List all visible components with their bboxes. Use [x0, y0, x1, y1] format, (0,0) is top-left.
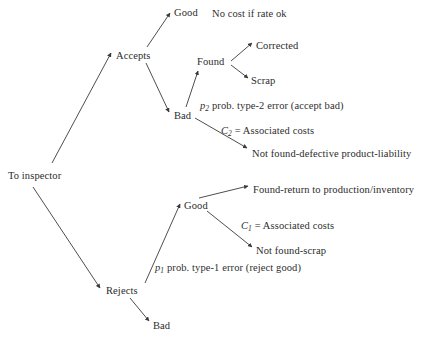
- tree-edge-root-rejects: [33, 187, 100, 288]
- tree-node-found-return: Found-return to production/inventory: [253, 184, 414, 196]
- tree-node-rejects-bad: Bad: [153, 320, 170, 332]
- tree-edges-svg: [0, 0, 422, 342]
- tree-node-not-found-scrap: Not found-scrap: [256, 245, 326, 257]
- tree-edge-root-accepts: [52, 53, 111, 163]
- annotation-text: = Associated costs: [252, 220, 334, 231]
- tree-node-accepts-bad: Bad: [174, 110, 191, 122]
- tree-edge-accepts-good: [147, 13, 170, 47]
- tree-node-scrap: Scrap: [251, 75, 275, 87]
- tree-annotation-c1: C1 = Associated costs: [241, 220, 334, 235]
- tree-edge-good-foundreturn: [199, 186, 248, 198]
- tree-node-not-found-def: Not found-defective product-liability: [252, 148, 411, 160]
- tree-node-rejects-good: Good: [184, 200, 208, 212]
- annotation-text: = Associated costs: [232, 125, 314, 136]
- annotation-text: No cost if rate ok: [212, 8, 287, 19]
- annotation-text: prob. type-1 error (reject good): [164, 262, 301, 273]
- tree-annotation-p2: p2 prob. type-2 error (accept bad): [200, 100, 344, 115]
- tree-edge-bad-found: [186, 71, 198, 107]
- tree-edge-rejects-bad: [130, 298, 149, 321]
- tree-node-corrected: Corrected: [256, 40, 298, 52]
- tree-node-root: To inspector: [8, 170, 61, 182]
- annotation-text: prob. type-2 error (accept bad): [209, 100, 343, 111]
- tree-node-accepts-good: Good: [174, 7, 198, 19]
- tree-annotation-no-cost: No cost if rate ok: [212, 8, 287, 20]
- decision-tree-diagram: To inspectorAcceptsRejectsGoodBadFoundCo…: [0, 0, 422, 342]
- tree-node-found: Found: [197, 56, 224, 68]
- tree-edge-found-corrected: [231, 43, 252, 61]
- tree-annotation-p1: p1 prob. type-1 error (reject good): [155, 262, 301, 277]
- tree-annotation-c2: C2 = Associated costs: [221, 125, 314, 140]
- tree-edge-found-scrap: [231, 65, 248, 78]
- tree-node-rejects: Rejects: [106, 285, 138, 297]
- tree-node-accepts: Accepts: [116, 50, 151, 62]
- tree-edge-accepts-bad: [146, 63, 169, 112]
